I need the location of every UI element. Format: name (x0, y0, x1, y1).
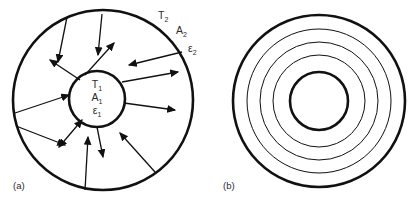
shield-inner (290, 72, 348, 130)
radiation-arrow-outward-lower-left (59, 120, 82, 147)
radiation-arrow-outward-down (97, 127, 103, 157)
shield-outer (233, 15, 405, 187)
outer-label-eps-sub: 2 (193, 49, 197, 56)
svg-text:T2: T2 (158, 9, 168, 23)
svg-text:ε2: ε2 (188, 42, 197, 56)
panel-b: (b) (223, 15, 405, 191)
svg-text:A2: A2 (176, 24, 187, 38)
radiation-arrow-inward-left (15, 95, 69, 113)
radiation-arrow-inward-right-upper (129, 52, 182, 65)
radiation-arrow-inward-top-center (98, 14, 102, 55)
radiation-arrow-outward-right-lower (124, 103, 175, 110)
inner-label-T-sub: 1 (98, 85, 102, 92)
outer-label-A-base: A (176, 24, 183, 36)
panel-b-label: (b) (223, 180, 235, 191)
outer-label-T-sub: 2 (164, 16, 168, 23)
radiation-arrow-inward-top-left (58, 17, 67, 62)
shield-circle-group (233, 15, 405, 187)
shield-3 (260, 42, 378, 160)
inner-label-eps-sub: 1 (97, 111, 101, 118)
panel-a: T1 A1 ε1 T2 A2 ε2 (a) (13, 9, 197, 191)
radiation-enclosure-figure: T1 A1 ε1 T2 A2 ε2 (a) (0, 0, 416, 201)
panel-a-label: (a) (13, 180, 25, 191)
shield-2 (273, 55, 365, 147)
inner-label-A-base: A (92, 91, 99, 103)
outer-label-A-sub: 2 (183, 31, 187, 38)
shield-4 (247, 29, 391, 173)
inner-label-A-sub: 1 (99, 98, 103, 105)
radiation-arrow-outward-up-left (50, 60, 80, 80)
radiation-arrow-inward-lower-right (120, 133, 155, 172)
radiation-arrow-outward-right-upper (122, 72, 178, 82)
radiation-arrow-inward-bottom (85, 137, 88, 190)
figure-canvas: T1 A1 ε1 T2 A2 ε2 (a) (0, 0, 416, 201)
